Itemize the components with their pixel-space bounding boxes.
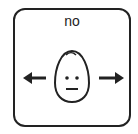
left-arrow-icon	[23, 72, 46, 84]
right-arrow-icon	[99, 72, 124, 84]
pictogram	[0, 0, 138, 134]
neutral-face-icon	[55, 51, 89, 102]
